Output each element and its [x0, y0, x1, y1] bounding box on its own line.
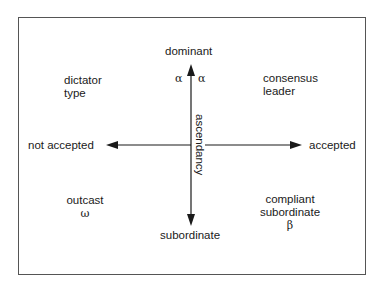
- subordinate-quadrant-label: subordinate: [257, 206, 323, 219]
- dominant-label: dominant: [165, 45, 212, 58]
- type-label: type: [64, 87, 102, 100]
- accepted-label: accepted: [309, 139, 356, 152]
- arrow-right-icon: [290, 141, 302, 149]
- alpha-right-symbol: α: [198, 73, 205, 85]
- quadrant-bottom-right: compliant subordinate β: [257, 193, 323, 232]
- quadrant-top-left: dictator type: [64, 74, 102, 100]
- leader-label: leader: [263, 85, 318, 98]
- compliant-label: compliant: [257, 193, 323, 206]
- arrow-left-icon: [106, 141, 118, 149]
- beta-symbol: β: [257, 219, 323, 232]
- alpha-left-symbol: α: [175, 73, 182, 85]
- quadrant-top-right: consensus leader: [263, 72, 318, 98]
- dictator-label: dictator: [64, 74, 102, 87]
- ascendancy-axis-title: ascendancy: [194, 114, 206, 175]
- omega-symbol: ω: [65, 207, 105, 220]
- subordinate-label: subordinate: [160, 229, 220, 242]
- arrow-down-icon: [187, 214, 195, 226]
- arrow-up-icon: [187, 64, 195, 76]
- quadrant-bottom-left: outcast ω: [65, 194, 105, 220]
- outcast-label: outcast: [65, 194, 105, 207]
- consensus-label: consensus: [263, 72, 318, 85]
- not-accepted-label: not accepted: [28, 139, 94, 152]
